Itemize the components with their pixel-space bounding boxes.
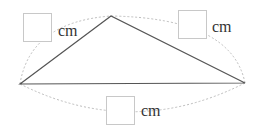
right-side-unit-label: cm — [212, 19, 232, 35]
triangle-figure: cm cm cm — [0, 0, 255, 138]
base-answer-box[interactable] — [106, 96, 135, 125]
left-side-unit-label: cm — [58, 23, 78, 39]
right-side-answer-box[interactable] — [178, 10, 207, 39]
base-unit-label: cm — [141, 103, 161, 119]
left-side-answer-box[interactable] — [23, 13, 52, 42]
